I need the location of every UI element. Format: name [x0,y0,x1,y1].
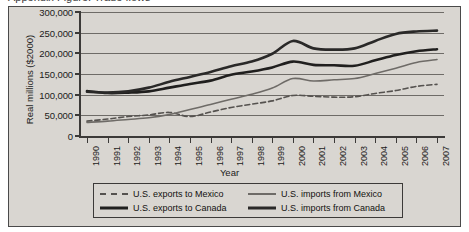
x-axis-line [79,136,445,138]
x-axis-tick [293,138,294,143]
x-axis-tick [252,138,253,143]
legend-label: U.S. exports to Canada [133,203,227,213]
y-axis-labels: 050,000100,000150,000200,000250,000300,0… [9,12,73,137]
x-axis-tick-label: 1998 [256,146,266,166]
series-line [87,31,437,93]
x-axis-tick [149,138,150,143]
x-axis-tick-label: 1994 [173,146,183,166]
figure-root: Appendix Figure: Trade flows Real millio… [0,0,469,232]
x-axis-tick-label: 1993 [153,146,163,166]
x-axis-tick-label: 2000 [297,146,307,166]
x-axis-tick-label: 2004 [379,146,389,166]
legend-item-exports-canada[interactable]: U.S. exports to Canada [100,203,248,213]
y-axis-tick-label: 50,000 [45,110,73,121]
y-axis-tick [75,11,81,13]
x-axis-tick [334,138,335,143]
x-axis-tick [190,138,191,143]
x-axis-tick [87,138,88,143]
x-axis-tick [169,138,170,143]
legend-row: U.S. exports to Mexico U.S. imports from… [100,187,396,201]
x-axis-tick [416,138,417,143]
y-axis-tick [75,52,81,54]
y-axis-tick-label: 300,000 [39,7,73,18]
legend-row: U.S. exports to Canada U.S. imports from… [100,201,396,215]
x-axis-tick [313,138,314,143]
x-axis-tick-label: 1992 [132,146,142,166]
legend-item-exports-mexico[interactable]: U.S. exports to Mexico [100,189,248,199]
y-axis-tick-label: 250,000 [39,27,73,38]
chart-legend: U.S. exports to Mexico U.S. imports from… [93,183,403,218]
x-axis-title-text: Year [220,167,239,178]
x-axis-tick [211,138,212,143]
x-axis-tick-label: 2007 [441,146,451,166]
x-axis-tick-label: 1991 [112,146,122,166]
y-axis-tick-label: 100,000 [39,89,73,100]
y-axis-tick-label: 0 [68,131,73,142]
series-layer [80,12,444,136]
x-axis-tick [128,138,129,143]
x-axis-tick-label: 1997 [235,146,245,166]
x-axis-tick [396,138,397,143]
legend-item-imports-canada[interactable]: U.S. imports from Canada [248,203,396,213]
x-axis-tick-label: 1999 [276,146,286,166]
cropped-caption-text: Appendix Figure: Trade flows [8,0,150,3]
legend-label: U.S. imports from Mexico [281,189,382,199]
x-axis-title: Year [9,167,462,178]
legend-swatch-line-icon [248,189,276,199]
legend-swatch-line-icon [248,203,276,213]
x-axis-tick-label: 2006 [420,146,430,166]
x-axis-tick-label: 1996 [215,146,225,166]
y-axis-tick-label: 200,000 [39,48,73,59]
y-axis-tick [75,135,81,137]
x-axis-tick-label: 1995 [194,146,204,166]
y-axis-tick [75,32,81,34]
x-axis-tick [355,138,356,143]
legend-swatch-line-icon [100,203,128,213]
x-axis-tick [231,138,232,143]
y-axis-tick-label: 150,000 [39,69,73,80]
x-axis-tick [272,138,273,143]
legend-label: U.S. exports to Mexico [133,189,224,199]
x-axis-tick-label: 2001 [317,146,327,166]
x-axis-tick-label: 2005 [400,146,410,166]
cropped-caption-sliver: Appendix Figure: Trade flows [0,0,469,5]
x-axis-tick-label: 2002 [338,146,348,166]
legend-item-imports-mexico[interactable]: U.S. imports from Mexico [248,189,396,199]
x-axis-tick-label: 1990 [91,146,101,166]
chart-figure: Real millions ($2000) 050,000100,000150,… [8,6,461,227]
legend-swatch-line-icon [100,189,128,199]
x-axis-tick [108,138,109,143]
x-axis-tick [375,138,376,143]
x-axis-tick-label: 2003 [359,146,369,166]
y-axis-tick [75,114,81,116]
legend-label: U.S. imports from Canada [281,203,385,213]
y-axis-tick [75,94,81,96]
y-axis-tick [75,73,81,75]
x-axis-tick [437,138,438,143]
